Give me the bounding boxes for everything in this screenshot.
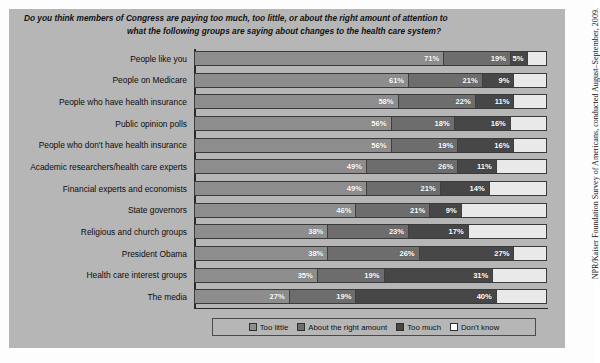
bar-value-label: 58% (378, 97, 397, 106)
stacked-bar: 49%26%11% (194, 159, 547, 174)
chart-row: People on Medicare61%21%9% (9, 70, 557, 91)
bar-segment: 11% (458, 160, 497, 173)
stacked-bar: 56%19%16% (194, 138, 547, 153)
bar-segment (493, 269, 546, 282)
bar-value-label: 27% (270, 292, 289, 301)
legend-swatch (249, 323, 257, 331)
category-label: Public opinion polls (9, 119, 194, 129)
plot-area: People like you71%19%5%People on Medicar… (9, 48, 557, 308)
bar-value-label: 40% (477, 292, 496, 301)
bar-segment: 49% (195, 160, 367, 173)
bar-segment: 19% (392, 139, 459, 152)
bar-value-label: 9% (498, 76, 513, 85)
bar-segment: 38% (195, 247, 328, 260)
legend-item: Don't know (450, 323, 499, 332)
bar-segment: 40% (356, 290, 496, 303)
legend-label: Too much (407, 323, 441, 332)
chart-row: People like you71%19%5% (9, 48, 557, 69)
bar-segment: 5% (511, 52, 529, 65)
category-label: President Obama (9, 249, 194, 259)
bar-segment: 21% (356, 204, 430, 217)
category-label: People who don't have health insurance (9, 140, 194, 150)
stacked-bar: 38%26%27% (194, 246, 547, 261)
bar-segment: 9% (430, 204, 462, 217)
category-label: People like you (9, 54, 194, 64)
chart-row: People who have health insurance58%22%11… (9, 91, 557, 112)
bar-value-label: 71% (424, 54, 443, 63)
bar-segment: 46% (195, 204, 356, 217)
bar-segment (497, 290, 546, 303)
legend-swatch (396, 323, 404, 331)
bar-value-label: 5% (512, 54, 527, 63)
bar-value-label: 49% (347, 162, 366, 171)
bar-segment: 19% (444, 52, 511, 65)
bar-segment (462, 204, 546, 217)
bar-segment: 14% (441, 182, 490, 195)
bar-value-label: 35% (298, 271, 317, 280)
stacked-bar: 58%22%11% (194, 94, 547, 109)
bar-segment: 22% (399, 95, 476, 108)
source-note: NPR/Kaiser Foundation Survey of American… (580, 6, 594, 356)
stacked-bar: 46%21%9% (194, 203, 547, 218)
category-label: Academic researchers/health care experts (9, 162, 194, 172)
bar-segment: 56% (195, 117, 392, 130)
bar-value-label: 19% (364, 271, 383, 280)
chart-row: Academic researchers/health care experts… (9, 156, 557, 177)
category-label: Financial experts and economists (9, 184, 194, 194)
bar-value-label: 21% (420, 184, 439, 193)
bar-value-label: 38% (308, 249, 327, 258)
bar-segment (490, 182, 546, 195)
bar-segment: 26% (328, 247, 419, 260)
chart-row: People who don't have health insurance56… (9, 135, 557, 156)
bar-segment: 21% (367, 182, 441, 195)
chart-title-line-2: what the following groups are saying abo… (22, 25, 546, 38)
legend-label: About the right amount (308, 323, 387, 332)
legend-swatch (450, 323, 458, 331)
legend-item: About the right amount (297, 323, 387, 332)
chart-row: The media27%19%40% (9, 286, 557, 307)
bar-segment: 38% (195, 225, 328, 238)
bar-segment: 49% (195, 182, 367, 195)
stacked-bar: 56%18%16% (194, 116, 547, 131)
chart-title-line-1: Do you think members of Congress are pay… (22, 12, 546, 25)
stacked-bar: 27%19%40% (194, 289, 547, 304)
bar-value-label: 11% (495, 97, 514, 106)
bar-segment: 19% (290, 290, 357, 303)
bar-value-label: 49% (347, 184, 366, 193)
chart-row: Public opinion polls56%18%16% (9, 113, 557, 134)
bar-value-label: 19% (491, 54, 510, 63)
category-label: The media (9, 292, 194, 302)
bar-segment (528, 52, 546, 65)
legend-swatch (297, 323, 305, 331)
stacked-bar: 38%23%17% (194, 224, 547, 239)
legend-item: Too much (396, 323, 441, 332)
legend-item: Too little (249, 323, 289, 332)
x-axis-baseline (194, 308, 548, 309)
bar-segment (514, 247, 546, 260)
bar-value-label: 26% (399, 249, 418, 258)
bar-segment: 31% (385, 269, 494, 282)
bar-segment: 23% (328, 225, 409, 238)
bar-segment: 16% (458, 139, 514, 152)
bar-segment: 27% (420, 247, 515, 260)
bar-value-label: 61% (389, 76, 408, 85)
category-label: People who have health insurance (9, 97, 194, 107)
category-label: Health care interest groups (9, 270, 194, 280)
bar-value-label: 16% (494, 141, 513, 150)
bar-segment: 71% (195, 52, 444, 65)
stacked-bar: 35%19%31% (194, 268, 547, 283)
chart-row: Health care interest groups35%19%31% (9, 265, 557, 286)
bar-value-label: 21% (463, 76, 482, 85)
bar-value-label: 18% (435, 119, 454, 128)
chart-row: Religious and church groups38%23%17% (9, 221, 557, 242)
bar-segment: 16% (455, 117, 511, 130)
bar-value-label: 56% (371, 141, 390, 150)
bar-value-label: 26% (438, 162, 457, 171)
bar-segment (514, 74, 546, 87)
bar-value-label: 16% (491, 119, 510, 128)
bar-segment: 61% (195, 74, 409, 87)
bar-segment: 18% (392, 117, 455, 130)
chart-legend: Too littleAbout the right amountToo much… (212, 318, 536, 336)
stacked-bar: 49%21%14% (194, 181, 547, 196)
